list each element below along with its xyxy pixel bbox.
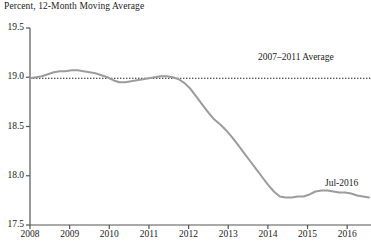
plot-area <box>0 0 371 246</box>
y-axis-tick-label: 19.0 <box>0 71 24 81</box>
average-line-label: 2007–2011 Average <box>258 52 334 62</box>
chart-container: Percent, 12-Month Moving Average 19.519.… <box>0 0 371 246</box>
data-series-line <box>30 70 369 197</box>
x-axis-tick-label: 2016 <box>327 229 367 239</box>
y-axis-tick-label: 18.5 <box>0 121 24 131</box>
y-axis-tick-label: 17.5 <box>0 219 24 229</box>
x-axis-tick-label: 2009 <box>50 229 90 239</box>
x-axis-tick-label: 2011 <box>129 229 169 239</box>
x-axis-tick-label: 2008 <box>10 229 50 239</box>
x-axis-tick-label: 2015 <box>288 229 328 239</box>
last-point-label: Jul-2016 <box>325 178 358 188</box>
x-axis-tick-label: 2013 <box>208 229 248 239</box>
x-axis-tick-label: 2010 <box>89 229 129 239</box>
x-axis-tick-label: 2014 <box>248 229 288 239</box>
y-axis-tick-label: 18.0 <box>0 170 24 180</box>
x-axis-tick-label: 2012 <box>169 229 209 239</box>
y-axis-tick-label: 19.5 <box>0 22 24 32</box>
